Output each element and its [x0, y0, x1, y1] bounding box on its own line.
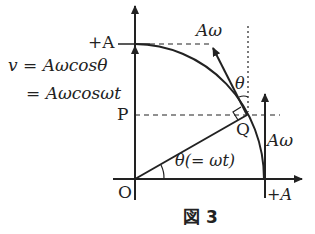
theta-arc-origin — [161, 165, 164, 179]
label-plus-a-right: +A — [267, 187, 292, 203]
label-a-omega-right: Aω — [267, 132, 293, 149]
label-theta-angle: θ(= ωt) — [175, 153, 235, 169]
label-velocity-eq1: v = Aωcosθ — [8, 57, 108, 74]
label-a-omega-top: Aω — [196, 22, 222, 39]
label-velocity-eq2: = Aωcosωt — [26, 85, 121, 102]
label-plus-a-top: +A — [88, 34, 115, 51]
label-point-q: Q — [236, 121, 250, 138]
label-point-p: P — [117, 106, 128, 123]
theta-arc-top — [239, 96, 248, 97]
label-theta-top: θ — [235, 76, 245, 92]
label-origin: O — [118, 184, 132, 201]
figure-caption: 図 3 — [183, 209, 218, 226]
